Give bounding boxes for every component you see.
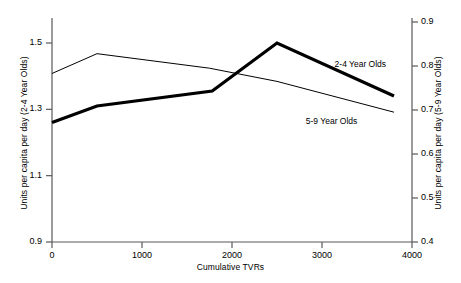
right-tick-label: 0.5 bbox=[421, 192, 451, 202]
series-annotation-2-4-year-olds: 2-4 Year Olds bbox=[335, 59, 387, 69]
right-tick-label: 0.8 bbox=[421, 60, 451, 70]
x-tick-label: 2000 bbox=[210, 250, 254, 260]
x-tick-label: 4000 bbox=[390, 250, 434, 260]
left-tick-label: 0.9 bbox=[12, 236, 42, 246]
right-tick-label: 0.9 bbox=[421, 16, 451, 26]
left-axis-ticks bbox=[46, 43, 52, 242]
right-tick-label: 0.6 bbox=[421, 148, 451, 158]
series-annotation-5-9-year-olds: 5-9 Year Olds bbox=[306, 116, 358, 126]
left-tick-label: 1.3 bbox=[12, 103, 42, 113]
chart-figure: Units per capita per day (2-4 Year Olds)… bbox=[0, 0, 461, 283]
x-tick-label: 3000 bbox=[300, 250, 344, 260]
right-axis-ticks bbox=[412, 22, 418, 242]
left-tick-label: 1.5 bbox=[12, 37, 42, 47]
left-tick-label: 1.1 bbox=[12, 170, 42, 180]
right-tick-label: 0.4 bbox=[421, 236, 451, 246]
x-tick-label: 1000 bbox=[120, 250, 164, 260]
right-tick-label: 0.7 bbox=[421, 104, 451, 114]
left-axis-title: Units per capita per day (2-4 Year Olds) bbox=[19, 33, 29, 233]
chart-plot-area bbox=[0, 0, 461, 283]
x-tick-label: 0 bbox=[30, 250, 74, 260]
x-axis-title: Cumulative TVRs bbox=[0, 262, 461, 272]
x-axis-ticks bbox=[52, 242, 412, 248]
